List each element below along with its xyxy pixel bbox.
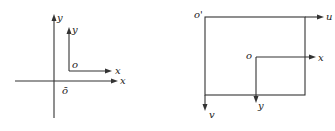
outer-x-label: x	[120, 75, 126, 86]
left-diagram: y x ō y x o	[15, 12, 126, 118]
inner-origin-label: o	[72, 59, 78, 70]
inner-origin-label: o	[246, 50, 252, 61]
image-origin-label: o'	[194, 9, 203, 20]
outer-x-arrow-icon	[111, 79, 118, 84]
image-frame	[205, 17, 305, 95]
inner-y-arrow-icon	[67, 27, 72, 34]
outer-y-label: y	[56, 12, 63, 23]
inner-x-arrow-icon	[309, 55, 316, 60]
inner-x-arrow-icon	[105, 69, 112, 74]
outer-origin-label: ō	[62, 85, 68, 96]
inner-y-label: y	[257, 100, 264, 111]
inner-x-label: x	[115, 65, 121, 76]
inner-y-label: y	[71, 24, 78, 35]
v-arrow-icon	[203, 104, 208, 111]
u-label: u	[326, 11, 332, 22]
v-label: v	[209, 109, 215, 120]
u-arrow-icon	[317, 15, 324, 20]
inner-x-label: x	[318, 52, 324, 63]
right-diagram: u v o' x y o	[194, 9, 332, 120]
outer-y-arrow-icon	[52, 14, 57, 21]
coordinate-diagrams: y x ō y x o u v o' x	[0, 0, 335, 131]
